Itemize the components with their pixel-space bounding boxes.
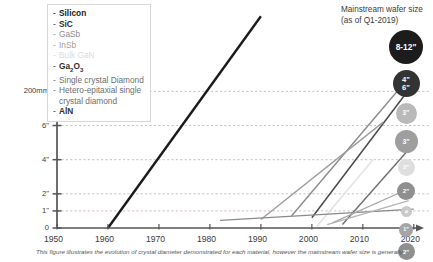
legend-item-gasb[interactable]: -GaSb <box>50 29 146 40</box>
badge-sublabel: 6" <box>402 84 410 92</box>
mainstream-badge-0: 8-12" <box>389 30 423 64</box>
badge-label: ⌀ <box>405 209 408 214</box>
y-axis-label-4in: 4" <box>0 155 49 164</box>
legend-item-ga2o3[interactable]: -Ga2O3 <box>50 61 146 75</box>
badge-label: 8-12" <box>396 43 417 51</box>
x-axis-label-2000: 2000 <box>299 234 318 244</box>
legend-dash-icon: - <box>50 61 59 72</box>
mainstream-badge-1: 4"6" <box>393 70 420 97</box>
mainstream-badge-4: 2" <box>398 159 415 176</box>
x-axis-label-1960: 1960 <box>95 234 114 244</box>
legend-item-silicon[interactable]: -Silicon <box>50 8 146 19</box>
legend-dash-icon: - <box>50 50 59 61</box>
legend-item-label: SiC <box>59 19 146 30</box>
y-axis-label-1in: 1" <box>0 206 49 215</box>
legend-item-sic[interactable]: -SiC <box>50 19 146 30</box>
mainstream-title-line1: Mainstream wafer size <box>341 4 433 15</box>
legend-item-label: InSb <box>59 40 146 51</box>
legend-item-label: Silicon <box>59 8 146 19</box>
legend-item-bulk-gan[interactable]: -Bulk GaN <box>50 50 146 61</box>
legend-item-single-crystal-diamond[interactable]: -Single crystal Diamond <box>50 75 146 86</box>
wafer-size-evolution-figure: 01"2"4"6"200mm 1950196019701980199020002… <box>0 0 433 262</box>
legend-item-label: Single crystal Diamond <box>59 75 146 86</box>
mainstream-badge-3: 3" <box>395 130 418 153</box>
x-axis-label-1950: 1950 <box>44 234 63 244</box>
x-axis-arrow-icon <box>416 224 424 231</box>
legend-dash-icon: - <box>50 40 59 51</box>
legend-dash-icon: - <box>50 19 59 30</box>
legend-item-insb[interactable]: -InSb <box>50 40 146 51</box>
mainstream-badge-7: 1" <box>399 223 413 237</box>
legend-item-label: Ga2O3 <box>59 61 146 75</box>
legend-item-aln[interactable]: -AlN <box>50 106 146 117</box>
legend-item-label: Hetero-epitaxial single crystal diamond <box>59 85 146 106</box>
badge-label: 1" <box>403 227 409 232</box>
legend-item-hetero-epitaxial-single-crystal-diamond[interactable]: -Hetero-epitaxial single crystal diamond <box>50 85 146 106</box>
mainstream-wafer-size-title: Mainstream wafer size (as of Q1-2019) <box>341 4 433 26</box>
y-axis-label-6in: 6" <box>0 121 49 130</box>
x-axis-label-1970: 1970 <box>146 234 165 244</box>
badge-label: 3" <box>402 138 409 145</box>
x-axis-label-1990: 1990 <box>248 234 267 244</box>
badge-label: 2" <box>403 188 409 194</box>
legend-dash-icon: - <box>50 75 59 86</box>
legend-dash-icon: - <box>50 106 59 117</box>
legend-item-label: Bulk GaN <box>59 50 146 61</box>
x-axis-label-2010: 2010 <box>350 234 369 244</box>
legend-dash-icon: - <box>50 85 59 96</box>
legend-item-label: AlN <box>59 106 146 117</box>
legend-item-label: GaSb <box>59 29 146 40</box>
series-line-sic <box>312 90 409 218</box>
series-line-aln <box>327 201 409 225</box>
legend-dash-icon: - <box>50 29 59 40</box>
mainstream-badge-6: ⌀ <box>401 206 412 217</box>
x-axis-label-1980: 1980 <box>197 234 216 244</box>
y-axis-label-200mm: 200mm <box>0 86 49 95</box>
y-axis-label-2in: 2" <box>0 189 49 198</box>
series-line-bulk-gan <box>317 160 373 227</box>
chart-legend: -Silicon-SiC-GaSb-InSb-Bulk GaN-Ga2O3-Si… <box>47 4 151 122</box>
mainstream-badge-2: 3" <box>396 103 417 124</box>
badge-label: 2" <box>403 165 409 171</box>
mainstream-badge-5: 2" <box>397 182 415 200</box>
mainstream-title-line2: (as of Q1-2019) <box>341 15 433 26</box>
y-axis-label-0: 0 <box>0 223 49 232</box>
figure-caption: This figure illustrates the evolution of… <box>36 248 430 256</box>
badge-label: 3" <box>403 110 410 117</box>
legend-dash-icon: - <box>50 8 59 19</box>
